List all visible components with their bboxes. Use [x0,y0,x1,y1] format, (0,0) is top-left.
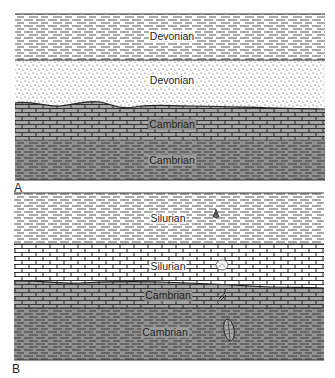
panel-label-a: A [14,182,22,194]
stratigraphy-diagram [0,0,335,378]
label-silurian-limestone: Silurian [149,261,186,272]
label-cambrian-shale-b: Cambrian [141,327,189,338]
label-cambrian-shale-a: Cambrian [148,155,196,166]
label-cambrian-limestone-b: Cambrian [144,290,192,301]
label-devonian-sandstone: Devonian [149,75,195,86]
panel-label-b: B [12,363,20,375]
brachiopod-fossil-icon [216,260,228,270]
label-devonian-shale: Devonian [149,31,195,42]
label-cambrian-limestone-a: Cambrian [148,119,196,130]
label-silurian-shale: Silurian [149,213,186,224]
